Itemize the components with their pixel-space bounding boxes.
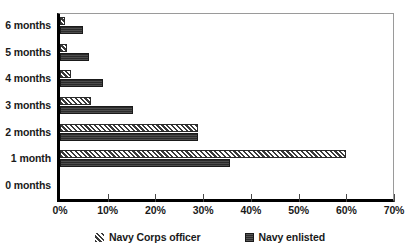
bar-enlisted-5-months	[60, 53, 89, 61]
bar-enlisted-4-months	[60, 79, 103, 87]
x-tick-label-10: 10%	[97, 204, 118, 216]
bar-officer-4-months	[60, 70, 71, 78]
legend-label: Navy Corps officer	[109, 231, 201, 243]
bar-officer-1-month	[60, 150, 346, 158]
legend-swatch-officer-icon	[95, 233, 104, 242]
y-axis-label-1-month: 1 month	[11, 153, 51, 164]
bar-enlisted-6-months	[60, 26, 83, 34]
bars-container	[60, 13, 394, 199]
y-axis-label-5-months: 5 months	[5, 47, 51, 58]
y-axis-label-0-months: 0 months	[5, 180, 51, 191]
x-tick-label-30: 30%	[193, 204, 214, 216]
y-axis-label-2-months: 2 months	[5, 127, 51, 138]
x-axis-ticks	[57, 194, 394, 203]
y-axis-label-4-months: 4 months	[5, 73, 51, 84]
y-axis-label-6-months: 6 months	[5, 20, 51, 31]
bar-enlisted-3-months	[60, 106, 133, 114]
x-tick-label-40: 40%	[240, 204, 261, 216]
x-tick-30	[203, 194, 204, 202]
bar-officer-6-months	[60, 17, 65, 25]
bar-officer-3-months	[60, 97, 91, 105]
x-tick-50	[299, 194, 300, 202]
legend-swatch-enlisted-icon	[245, 233, 254, 242]
legend-item-officer[interactable]: Navy Corps officer	[95, 231, 201, 243]
bar-officer-5-months	[60, 44, 67, 52]
x-tick-label-60: 60%	[336, 204, 357, 216]
x-tick-label-20: 20%	[145, 204, 166, 216]
x-tick-label-70: 70%	[384, 204, 405, 216]
legend-item-enlisted[interactable]: Navy enlisted	[245, 231, 325, 243]
x-tick-60	[346, 194, 347, 202]
x-tick-20	[155, 194, 156, 202]
x-tick-label-50: 50%	[288, 204, 309, 216]
chart-legend: Navy Corps officerNavy enlisted	[0, 228, 420, 246]
horizontal-bar-chart: 0 months1 month2 months3 months4 months5…	[0, 0, 420, 250]
x-tick-40	[251, 194, 252, 202]
y-axis-label-3-months: 3 months	[5, 100, 51, 111]
x-tick-10	[108, 194, 109, 202]
bar-enlisted-2-months	[60, 133, 198, 141]
bar-enlisted-1-month	[60, 159, 230, 167]
x-tick-label-0: 0%	[53, 204, 68, 216]
x-axis-tick-labels: 0%10%20%30%40%50%60%70%	[0, 204, 420, 220]
legend-label: Navy enlisted	[259, 231, 325, 243]
y-axis-category-labels: 0 months1 month2 months3 months4 months5…	[0, 13, 54, 199]
x-tick-70	[394, 194, 395, 202]
bar-officer-2-months	[60, 124, 198, 132]
